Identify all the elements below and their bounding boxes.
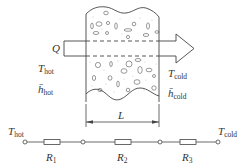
node-2	[158, 140, 162, 144]
resistor-r2-label: R2	[116, 151, 128, 165]
arrow-tail-box	[64, 41, 86, 56]
dimension-arrow-left-icon	[86, 120, 93, 123]
left-temperature-label: Thot	[38, 62, 55, 76]
node-cold	[216, 140, 220, 144]
heat-flow-label: Q	[52, 42, 60, 54]
porous-wall	[86, 7, 159, 102]
porous-speckles	[90, 17, 157, 93]
right-temperature-label: Tcold	[168, 67, 187, 81]
diagram-canvas: Q Thot h̄hot Tcold h̄cold L Thot Tcold R…	[0, 0, 248, 168]
circuit-start-label: Thot	[8, 125, 25, 139]
resistor-r1-label: R1	[45, 151, 57, 165]
node-hot	[23, 140, 27, 144]
arrow-head	[159, 34, 194, 63]
resistor-r1	[44, 140, 60, 145]
circuit-end-label: Tcold	[218, 125, 237, 139]
dimension-arrow-right-icon	[152, 120, 159, 123]
right-htc-label: h̄cold	[168, 87, 187, 101]
wall-top-wavy-edge	[86, 7, 159, 17]
wall-bottom-wavy-edge	[86, 88, 159, 100]
left-htc-label: h̄hot	[38, 83, 54, 97]
thickness-label: L	[117, 109, 124, 121]
resistor-r3	[180, 140, 196, 145]
pores	[91, 11, 159, 92]
resistor-r2	[115, 140, 131, 145]
resistor-r3-label: R3	[181, 151, 193, 165]
node-1	[81, 140, 85, 144]
thermal-circuit	[23, 140, 220, 145]
